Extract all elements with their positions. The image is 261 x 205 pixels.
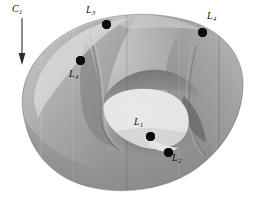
point-label-letter: L [86, 4, 92, 15]
arrow-head [19, 53, 26, 65]
point-label-letter: L [172, 152, 178, 163]
point-label-l2: L2 [172, 153, 181, 163]
point-marker-l4[interactable] [198, 28, 207, 37]
c1-direction-arrow [14, 18, 30, 66]
curve-label-c1: C1 [12, 4, 22, 14]
point-label-subscript: 2 [178, 157, 181, 164]
point-label-l1: L1 [134, 117, 143, 127]
curve-label-letter: C [12, 3, 19, 14]
point-marker-l4b[interactable] [76, 56, 85, 65]
point-label-subscript: 1 [140, 121, 143, 128]
point-label-letter: L [69, 68, 75, 79]
point-marker-l3[interactable] [102, 20, 111, 29]
point-label-l3: L3 [86, 5, 95, 15]
point-label-letter: L [134, 116, 140, 127]
point-label-subscript: 3 [92, 9, 95, 16]
point-marker-l1[interactable] [146, 132, 155, 141]
point-label-letter: L [207, 10, 213, 21]
point-label-l4: L4 [207, 11, 216, 21]
curve-label-subscript: 1 [19, 8, 22, 15]
torus-surface-graphic [0, 0, 261, 205]
torus-figure: C1 L1 L2 L3 L4 L4 [0, 0, 261, 205]
point-label-l4b: L4 [69, 69, 78, 79]
point-label-subscript: 4 [213, 15, 216, 22]
paper-grain [0, 0, 261, 205]
point-label-subscript: 4 [75, 73, 78, 80]
